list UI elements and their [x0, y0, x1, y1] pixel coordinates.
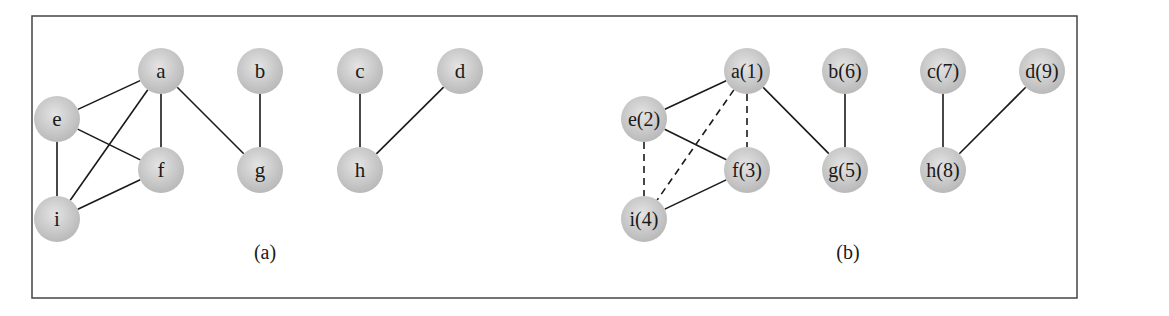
node-g: g — [237, 147, 283, 193]
node-c: c — [337, 48, 383, 94]
panel-a-undirected-graph: abcdefghi (a) — [34, 48, 483, 264]
node-d: d(9) — [1019, 48, 1065, 94]
node-a: a(1) — [724, 48, 770, 94]
edge-a-e — [665, 81, 726, 110]
edge-a-g — [177, 87, 243, 153]
node-a: a — [138, 48, 184, 94]
node-label: i — [54, 207, 60, 231]
node-label: d(9) — [1025, 60, 1058, 83]
node-c: c(7) — [920, 48, 966, 94]
edge-a-g — [763, 87, 829, 153]
node-label: c — [355, 59, 364, 83]
graph-figure: abcdefghi (a) a(1)b(6)c(7)d(9)e(2)f(3)g(… — [0, 0, 1169, 316]
node-h: h(8) — [920, 147, 966, 193]
panel-a-caption: (a) — [254, 241, 276, 264]
node-label: i(4) — [630, 208, 659, 231]
node-label: h — [355, 158, 366, 182]
node-label: a — [156, 59, 166, 83]
node-e: e — [34, 96, 80, 142]
node-label: f(3) — [732, 159, 762, 182]
node-label: e — [52, 107, 61, 131]
edge-d-h — [959, 87, 1025, 153]
node-h: h — [337, 147, 383, 193]
node-label: g — [255, 158, 266, 182]
node-i: i(4) — [621, 196, 667, 242]
node-label: b(6) — [828, 60, 861, 83]
panel-b-nodes: a(1)b(6)c(7)d(9)e(2)f(3)g(5)h(8)i(4) — [621, 48, 1065, 242]
node-label: g(5) — [828, 159, 861, 182]
edge-e-f — [665, 129, 727, 160]
node-f: f — [138, 147, 184, 193]
panel-b-caption: (b) — [836, 241, 859, 264]
node-e: e(2) — [621, 96, 667, 142]
node-i: i — [34, 196, 80, 242]
node-label: b — [255, 59, 266, 83]
node-label: c(7) — [927, 60, 959, 83]
node-f: f(3) — [724, 147, 770, 193]
node-label: d — [455, 59, 466, 83]
edge-d-h — [376, 87, 443, 154]
node-b: b — [237, 48, 283, 94]
node-d: d — [437, 48, 483, 94]
edge-f-i — [665, 180, 726, 209]
node-label: f — [158, 158, 165, 182]
node-b: b(6) — [822, 48, 868, 94]
node-label: a(1) — [731, 60, 763, 83]
edge-f-i — [78, 180, 140, 209]
panel-b-dfs-ordering-graph: a(1)b(6)c(7)d(9)e(2)f(3)g(5)h(8)i(4) (b) — [621, 48, 1065, 264]
node-label: h(8) — [926, 159, 959, 182]
panel-a-nodes: abcdefghi — [34, 48, 483, 242]
node-label: e(2) — [628, 108, 660, 131]
node-g: g(5) — [822, 147, 868, 193]
edge-a-e — [78, 81, 140, 110]
figure-frame — [32, 16, 1077, 298]
edge-e-f — [78, 129, 141, 160]
